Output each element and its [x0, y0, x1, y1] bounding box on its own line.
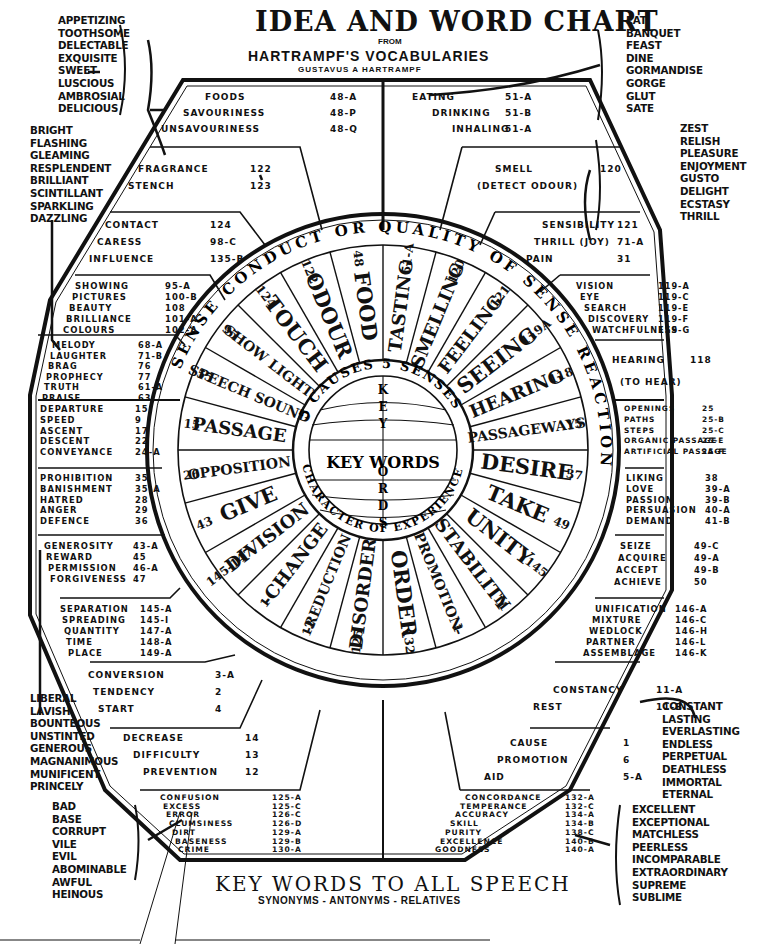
section-entry: DIFFICULTY [133, 750, 200, 760]
section-entry: SENSIBILITY [542, 220, 615, 230]
entry-number: 45 [133, 552, 147, 562]
sector-label: OPPOSITION [186, 453, 291, 482]
section-entry: SPREADING [62, 615, 126, 625]
section-entry: DISCOVERY [588, 314, 649, 324]
vertical-letter: D [378, 499, 388, 513]
entry-number: 48-Q [330, 124, 358, 134]
section-entry: PRAISE [42, 393, 81, 403]
entry-number: 146-A [675, 604, 707, 614]
section-entry: ASCENT [40, 426, 83, 436]
section-entry: SAVOURINESS [183, 108, 265, 118]
entry-number: 119-C [658, 292, 690, 302]
entry-number: 24-A [135, 447, 161, 457]
vertical-letter: E [378, 400, 387, 414]
entry-word: QUANTITY [64, 626, 120, 636]
entry-number: 25-F [702, 447, 724, 456]
section-entry: BANISHMENT [40, 484, 113, 494]
entry-number: 132-C [565, 802, 595, 811]
entry-word: BRAG [48, 361, 78, 371]
sector-number: 145 [522, 554, 550, 580]
entry-word: MIXTURE [592, 615, 642, 625]
section-entry: PLACE [68, 648, 103, 658]
entry-word: SPREADING [62, 615, 126, 625]
entry-number: 1 [623, 738, 630, 748]
entry-number: 119-F [658, 314, 689, 324]
section-entry: QUANTITY [64, 626, 120, 636]
entry-word: INHALING [452, 124, 509, 134]
sector-number: 43 [194, 514, 215, 533]
section-entry: GOODNESS [435, 845, 491, 854]
section-entry: DEPARTURE [40, 404, 104, 414]
section-entry: TRUTH [44, 382, 80, 392]
entry-number: 140-A [565, 845, 595, 854]
entry-number: 102-A [165, 325, 198, 335]
entry-word: STENCH [128, 181, 174, 191]
entry-word: CRIME [178, 845, 210, 854]
section-entry: PASSION [626, 495, 674, 505]
entry-word: REST [533, 702, 563, 712]
section-entry: PATHS [624, 415, 655, 424]
entry-word: DESCENT [40, 436, 90, 446]
entry-number: 12 [245, 767, 260, 777]
section-entry: CONFUSION [160, 793, 220, 802]
section-entry: START [98, 704, 135, 714]
entry-word: VISION [576, 281, 614, 291]
entry-number: 51-A [505, 124, 532, 134]
entry-word: PATHS [624, 415, 655, 424]
entry-word: STEPS [624, 426, 655, 435]
entry-number: 25-B [702, 415, 725, 424]
entry-word: PERMISSION [48, 563, 117, 573]
entry-number: 50 [694, 577, 708, 587]
entry-word: GOODNESS [435, 845, 491, 854]
section-entry: LIKING [626, 473, 664, 483]
section-entry: ACQUIRE [618, 553, 667, 563]
section-entry: GENEROSITY [44, 541, 114, 551]
section-entry: CONVEYANCE [40, 447, 113, 457]
entry-word: WEDLOCK [589, 626, 643, 636]
sector-number: 15 [183, 416, 201, 432]
entry-number: 17 [135, 426, 149, 436]
entry-word: BASENESS [175, 837, 227, 846]
section-entry: INHALING [452, 124, 509, 134]
entry-number: 22 [135, 436, 149, 446]
entry-word: CONVERSION [88, 670, 165, 680]
section-entry: CONVERSION [88, 670, 165, 680]
section-entry: ACCURACY [455, 810, 509, 819]
section-entry: SHOWING [75, 281, 129, 291]
entry-number: 63 [138, 393, 151, 403]
entry-number: 135-B [210, 254, 244, 264]
section-entry: CONTACT [105, 220, 159, 230]
entry-number: 126-C [272, 810, 302, 819]
entry-word: SKILL [450, 819, 479, 828]
entry-number: 9 [135, 415, 142, 425]
entry-word: PROHIBITION [40, 473, 113, 483]
entry-word: START [98, 704, 135, 714]
section-entry: BRAG [48, 361, 78, 371]
entry-number: 130-A [272, 845, 302, 854]
entry-number: 47 [133, 574, 147, 584]
entry-word: SENSIBILITY [542, 220, 615, 230]
entry-word: PASSION [626, 495, 674, 505]
entry-word: SHOWING [75, 281, 129, 291]
entry-number: 28 [135, 495, 149, 505]
entry-number: 77 [138, 372, 151, 382]
vertical-letter: O [378, 465, 388, 479]
entry-word: DEFENCE [40, 516, 90, 526]
entry-number: 145-I [140, 615, 169, 625]
section-entry: SKILL [450, 819, 479, 828]
entry-number: 51-B [505, 108, 532, 118]
section-entry: TENDENCY [93, 687, 155, 697]
section-entry: COLOURS [63, 325, 115, 335]
entry-number: 101-A [165, 314, 198, 324]
entry-number: 125-C [272, 802, 302, 811]
entry-number: 5-A [623, 772, 643, 782]
entry-number: 51-A [505, 92, 532, 102]
entry-number: 138-C [565, 828, 595, 837]
section-entry: DRINKING [432, 108, 491, 118]
section-entry: UNSAVOURINESS [161, 124, 260, 134]
section-entry: STENCH [128, 181, 174, 191]
entry-number: 49-C [694, 541, 719, 551]
entry-number: 148-A [140, 637, 172, 647]
entry-number: 4 [215, 704, 222, 714]
sector-number: 49 [551, 514, 572, 533]
